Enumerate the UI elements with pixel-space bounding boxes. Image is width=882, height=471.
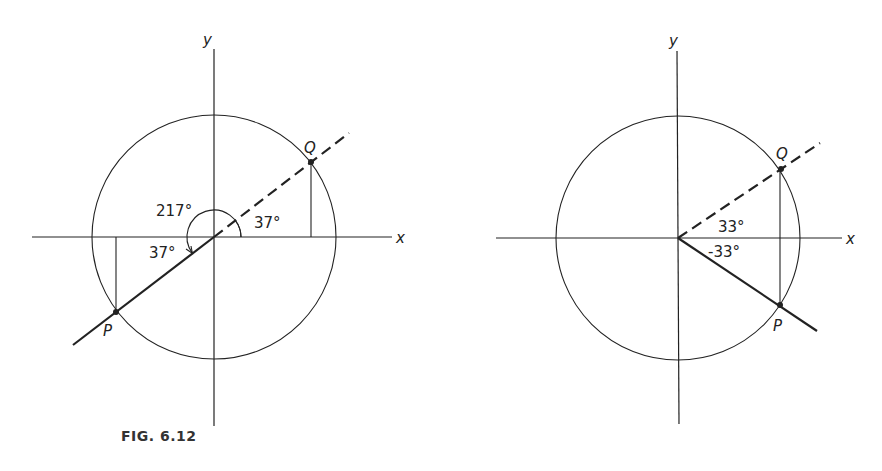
left-point-p — [113, 309, 119, 315]
figure-canvas: y x Q P 217° 37° 37° y x Q P 33° -33° — [0, 0, 882, 471]
left-q-label: Q — [304, 139, 316, 157]
right-q-label: Q — [776, 145, 788, 163]
left-figure — [32, 49, 392, 426]
right-angle-33-label: 33° — [718, 218, 745, 236]
figure-caption: FIG. 6.12 — [121, 428, 197, 444]
right-point-q — [778, 166, 784, 172]
left-p-label: P — [103, 322, 113, 340]
right-terminal-side-solid — [678, 238, 817, 331]
right-point-p — [777, 302, 783, 308]
right-angle-neg33-label: -33° — [708, 243, 740, 261]
left-angle-217-label: 217° — [156, 202, 192, 220]
right-y-axis-label: y — [668, 32, 679, 50]
left-angle-37-ref-label: 37° — [254, 214, 281, 232]
left-point-q — [308, 159, 314, 165]
right-x-axis-label: x — [845, 230, 855, 248]
left-x-axis-label: x — [395, 229, 405, 247]
left-angle-37-p-label: 37° — [149, 244, 176, 262]
right-figure — [496, 51, 842, 424]
right-p-label: P — [773, 317, 783, 335]
left-y-axis-label: y — [202, 31, 213, 49]
left-terminal-side-dashed — [214, 133, 349, 237]
